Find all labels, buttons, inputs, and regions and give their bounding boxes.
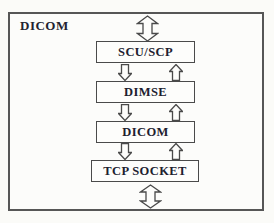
layer-label: TCP SOCKET — [103, 164, 187, 179]
layer-box-dicom: DICOM — [96, 121, 195, 143]
layer-label: SCU/SCP — [118, 45, 173, 60]
up-arrow-icon — [169, 143, 183, 160]
diagram-title: DICOM — [20, 18, 69, 34]
layer-label: DIMSE — [124, 85, 167, 100]
double-arrow-icon — [139, 184, 162, 209]
double-arrow-icon — [136, 15, 159, 42]
layer-label: DICOM — [122, 125, 168, 140]
diagram-canvas: DICOM SCU/SCP DIMSE DICOM — [0, 0, 274, 223]
layer-box-dimse: DIMSE — [96, 81, 195, 103]
down-arrow-icon — [118, 104, 132, 121]
down-arrow-icon — [118, 64, 132, 81]
down-arrow-icon — [118, 143, 132, 160]
up-arrow-icon — [169, 64, 183, 81]
layer-box-tcp-socket: TCP SOCKET — [91, 160, 199, 182]
up-arrow-icon — [169, 104, 183, 121]
layer-box-scu-scp: SCU/SCP — [96, 41, 195, 63]
